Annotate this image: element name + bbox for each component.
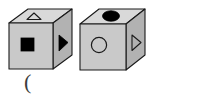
cube-right <box>80 9 145 70</box>
paren-annotation: ( <box>24 71 31 93</box>
square-filled-icon <box>21 38 34 51</box>
figure-canvas: ( <box>0 0 199 104</box>
cube-right-front-face <box>80 24 126 70</box>
cube-left <box>9 9 72 69</box>
ellipse-filled-icon <box>103 11 120 21</box>
